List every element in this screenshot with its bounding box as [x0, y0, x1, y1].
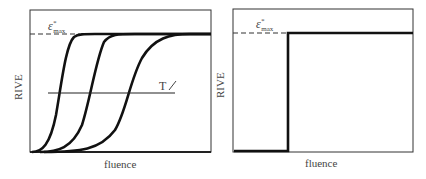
left-panel: T ε*max RIVE fluence [12, 10, 211, 170]
figure: T ε*max RIVE fluence ε*max RIVE fluence [0, 0, 426, 179]
left-x-axis-label: fluence [104, 158, 136, 170]
right-saturation-label: ε*max [256, 17, 274, 33]
right-panel: ε*max RIVE fluence [214, 9, 413, 169]
right-y-axis-label: RIVE [214, 72, 226, 98]
left-saturation-label: ε*max [48, 19, 66, 35]
left-y-axis-label: RIVE [12, 74, 24, 100]
temperature-increase-arrow-icon [169, 81, 176, 90]
step-curve [234, 33, 413, 151]
right-x-axis-label: fluence [305, 157, 337, 169]
temperature-label: T [159, 79, 167, 93]
